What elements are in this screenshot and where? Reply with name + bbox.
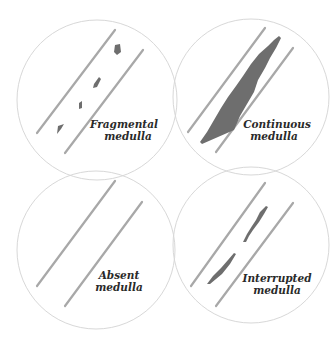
label-line1: Absent	[98, 269, 140, 281]
label-line2: medulla	[95, 281, 143, 293]
label-line2: medulla	[104, 130, 152, 142]
panel-interrupted: Interrupted medulla	[173, 167, 329, 323]
label-line1: Interrupted	[242, 272, 313, 284]
panel-fragmental: Fragmental medulla	[17, 20, 177, 180]
panel-circle	[17, 20, 177, 180]
panel-circle	[173, 167, 329, 323]
hair-cortex-edge-left	[191, 183, 265, 286]
panel-absent: Absent medulla	[17, 171, 175, 329]
label-line2: medulla	[253, 284, 301, 296]
medulla-types-diagram: Fragmental medulla Continuous medulla Ab…	[0, 0, 334, 343]
label-line2: medulla	[250, 130, 298, 142]
label-line1: Fragmental	[89, 118, 158, 130]
label-line1: Continuous	[243, 118, 311, 130]
panel-circle	[17, 171, 175, 329]
panel-continuous: Continuous medulla	[173, 19, 329, 175]
